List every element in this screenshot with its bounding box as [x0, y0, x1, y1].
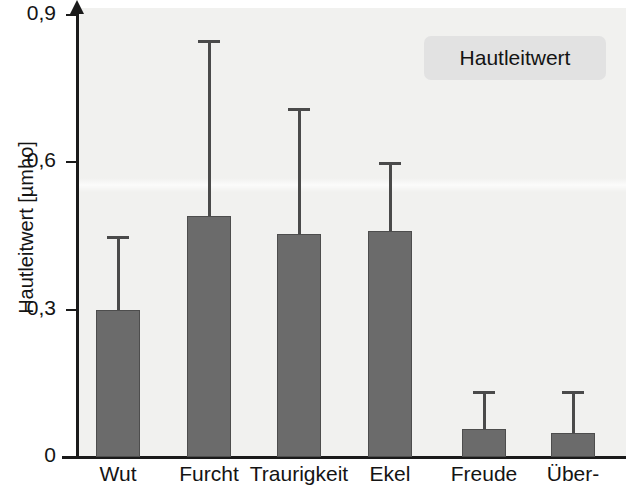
y-axis-arrow-icon	[70, 0, 84, 14]
y-tick-mark	[66, 456, 77, 458]
bar	[277, 234, 321, 457]
y-tick-label: 0,9	[14, 1, 56, 25]
y-tick-mark	[66, 14, 77, 16]
error-bar-stem	[298, 108, 301, 233]
legend-label: Hautleitwert	[460, 46, 571, 70]
error-bar-stem	[483, 391, 486, 429]
bar	[551, 433, 595, 457]
bar	[368, 231, 412, 457]
error-bar-cap	[198, 40, 220, 43]
x-axis-line	[62, 456, 626, 459]
y-axis-line	[76, 12, 79, 459]
error-bar-stem	[208, 40, 211, 217]
error-bar-cap	[288, 108, 310, 111]
bar	[96, 310, 140, 457]
bar	[462, 429, 506, 457]
error-bar-stem	[117, 236, 120, 310]
error-bar-cap	[473, 391, 495, 394]
y-tick-mark	[66, 161, 77, 163]
error-bar-cap	[107, 236, 129, 239]
error-bar-stem	[389, 162, 392, 231]
y-tick-label: 0,6	[14, 148, 56, 172]
error-bar-cap	[379, 162, 401, 165]
bar	[187, 216, 231, 457]
x-tick-label: Über-	[493, 462, 626, 486]
error-bar-cap	[562, 391, 584, 394]
y-tick-mark	[66, 309, 77, 311]
legend-box: Hautleitwert	[424, 36, 606, 80]
bar-chart-figure: Hautleitwert [µmho] 0,90,60,30 WutFurcht…	[0, 0, 626, 496]
y-tick-label: 0,3	[14, 296, 56, 320]
error-bar-stem	[572, 391, 575, 434]
